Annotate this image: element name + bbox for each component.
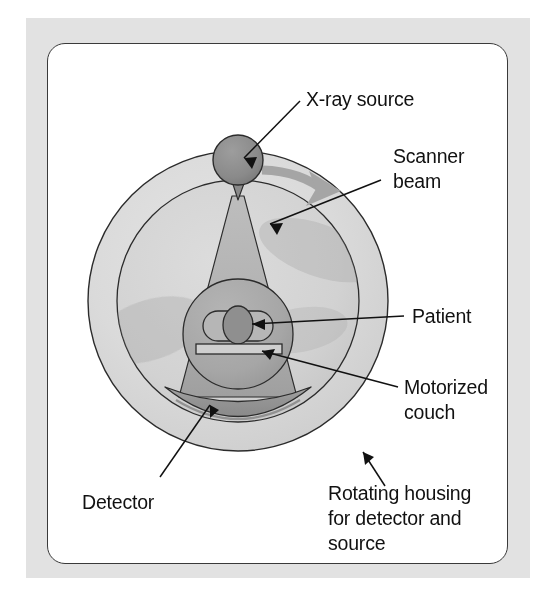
- label-scanner-beam-line1: Scanner: [393, 145, 465, 167]
- label-motorized-couch-line1: Motorized: [404, 376, 488, 398]
- figure-root: X-ray source Scanner beam Patient Motori…: [0, 0, 553, 598]
- label-detector: Detector: [82, 491, 155, 513]
- label-rotating-housing-line1: Rotating housing: [328, 482, 471, 504]
- label-rotating-housing-line3: source: [328, 532, 385, 554]
- patient-body-cross-section: [183, 279, 293, 389]
- label-patient: Patient: [412, 305, 472, 327]
- label-motorized-couch-line2: couch: [404, 401, 455, 423]
- label-xray-source: X-ray source: [306, 88, 414, 110]
- patient-spine: [223, 306, 253, 344]
- ct-scanner-diagram: X-ray source Scanner beam Patient Motori…: [0, 0, 553, 598]
- label-scanner-beam-line2: beam: [393, 170, 441, 192]
- label-rotating-housing-line2: for detector and: [328, 507, 461, 529]
